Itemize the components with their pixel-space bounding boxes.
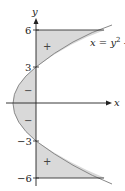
tick-label-neg6: −6 bbox=[17, 173, 32, 184]
x-axis-label: x bbox=[114, 97, 120, 108]
y-axis-arrow-icon bbox=[34, 18, 39, 24]
x-axis-arrow-icon bbox=[106, 101, 112, 106]
sign-lower-middle: − bbox=[24, 115, 32, 126]
tick-label-3: 3 bbox=[25, 62, 31, 73]
sign-bottom: + bbox=[43, 156, 51, 167]
y-axis-label: y bbox=[31, 6, 38, 17]
curve-label: x = y2 - bbox=[90, 36, 125, 48]
tick-label-neg3: −3 bbox=[17, 136, 32, 147]
sign-top: + bbox=[43, 41, 51, 52]
parabola-diagram: y x 6 3 −3 −6 + − − + x = y2 - bbox=[0, 0, 125, 191]
sign-upper-middle: − bbox=[24, 85, 32, 96]
tick-label-6: 6 bbox=[25, 25, 31, 36]
